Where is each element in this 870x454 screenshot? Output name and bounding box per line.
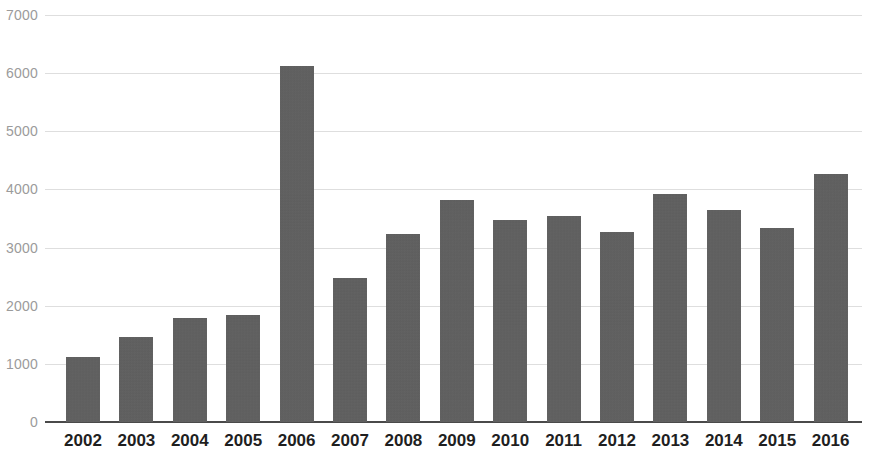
y-axis-tick-labels: 01000200030004000500060007000 [0, 0, 38, 454]
gridline [45, 73, 862, 74]
x-tick-label: 2007 [320, 430, 380, 452]
x-tick-label: 2008 [373, 430, 433, 452]
bar [440, 200, 474, 422]
x-tick-label: 2004 [160, 430, 220, 452]
bar [653, 194, 687, 423]
gridline [45, 15, 862, 16]
gridline [45, 189, 862, 190]
x-tick-label: 2009 [427, 430, 487, 452]
y-tick-label: 6000 [0, 66, 38, 80]
bar [119, 337, 153, 422]
bar [547, 216, 581, 422]
y-tick-label: 2000 [0, 299, 38, 313]
bar [333, 278, 367, 422]
bar [600, 232, 634, 422]
bar [814, 174, 848, 422]
bar [173, 318, 207, 422]
bar [386, 234, 420, 422]
bar [226, 315, 260, 422]
x-axis-tick-labels: 2002200320042005200620072008200920102011… [45, 430, 862, 454]
x-tick-label: 2002 [53, 430, 113, 452]
bar-chart: 01000200030004000500060007000 2002200320… [0, 0, 870, 454]
x-tick-label: 2012 [587, 430, 647, 452]
bar [760, 228, 794, 422]
x-tick-label: 2014 [694, 430, 754, 452]
y-tick-label: 0 [0, 415, 38, 429]
x-tick-label: 2016 [801, 430, 861, 452]
y-tick-label: 4000 [0, 182, 38, 196]
x-tick-label: 2006 [267, 430, 327, 452]
bar [493, 220, 527, 422]
y-tick-label: 5000 [0, 124, 38, 138]
plot-area [45, 0, 862, 422]
x-tick-label: 2011 [534, 430, 594, 452]
bar [707, 210, 741, 423]
y-tick-label: 1000 [0, 357, 38, 371]
x-tick-label: 2010 [480, 430, 540, 452]
y-tick-label: 3000 [0, 241, 38, 255]
x-tick-label: 2013 [640, 430, 700, 452]
gridline [45, 131, 862, 132]
x-tick-label: 2003 [106, 430, 166, 452]
x-tick-label: 2015 [747, 430, 807, 452]
bar [66, 357, 100, 422]
bar [280, 66, 314, 422]
x-tick-label: 2005 [213, 430, 273, 452]
y-tick-label: 7000 [0, 8, 38, 22]
